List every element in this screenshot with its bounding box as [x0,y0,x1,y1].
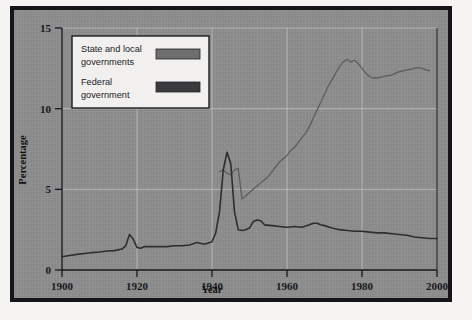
x-tick-label: 1900 [51,280,74,292]
x-axis-ticks: 190019201940196019802000 [51,270,448,292]
legend-label: government [81,90,130,100]
legend-swatch [156,82,200,92]
legend-swatch [156,49,200,59]
line-chart: 051015 190019201940196019802000 Percenta… [14,10,448,298]
legend-label: Federal [81,77,112,87]
x-tick-label: 1960 [276,280,299,292]
legend-label: State and local [81,44,142,54]
series-line [62,152,437,257]
plot-area-wrapper: 051015 190019201940196019802000 Percenta… [14,10,448,298]
x-tick-label: 2000 [426,280,448,292]
x-tick-label: 1980 [351,280,374,292]
y-tick-label: 0 [46,264,52,276]
y-axis-title: Percentage [17,135,28,185]
chart-legend: State and localgovernmentsFederalgovernm… [72,36,209,108]
chart-page: 051015 190019201940196019802000 Percenta… [0,0,472,320]
legend-label: governments [81,57,135,67]
x-axis-title: Year [202,284,223,295]
x-tick-label: 1920 [126,280,149,292]
y-axis-ticks: 051015 [40,22,62,276]
chart-frame: 051015 190019201940196019802000 Percenta… [10,6,452,302]
series-line [220,59,430,199]
y-tick-label: 5 [46,183,52,195]
y-tick-label: 15 [40,22,52,34]
y-tick-label: 10 [40,103,52,115]
